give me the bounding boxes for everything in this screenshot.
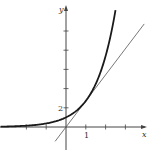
y-axis-label: y: [58, 5, 64, 14]
ticks: [26, 31, 125, 130]
x-axis-label: x: [142, 130, 147, 139]
x-axis-arrow-icon: [141, 125, 147, 129]
y-axis-arrow-icon: [64, 5, 68, 11]
tangent-line: [55, 24, 144, 141]
y-tick-label-2: 2: [58, 104, 63, 113]
chart-plot: y x 2 1: [0, 0, 149, 153]
axes: [0, 5, 147, 150]
x-tick-label-1: 1: [84, 131, 89, 140]
